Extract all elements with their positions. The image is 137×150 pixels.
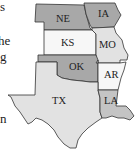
label-ks: KS: [61, 37, 75, 48]
label-tx: TX: [52, 95, 66, 106]
label-la: LA: [104, 95, 118, 106]
label-ne: NE: [56, 13, 70, 24]
label-mo: MO: [99, 39, 116, 50]
us-central-states-map: NE IA KS MO OK AR TX LA: [0, 0, 137, 150]
label-ar: AR: [104, 69, 119, 80]
label-ia: IA: [98, 8, 109, 19]
label-ok: OK: [69, 61, 85, 72]
